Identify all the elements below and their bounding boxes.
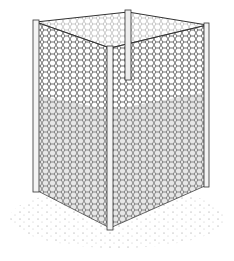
compost-bin-illustration [0, 0, 234, 261]
back-post [125, 10, 131, 80]
left-post [33, 20, 39, 192]
front-post [107, 46, 113, 230]
right-post [204, 23, 209, 187]
